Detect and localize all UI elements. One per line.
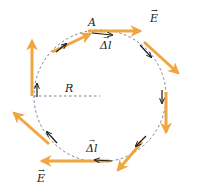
field-arrow-5 xyxy=(14,113,49,144)
dl-vector-bar-bottom: → xyxy=(89,137,95,145)
field-arrow-3 xyxy=(118,142,142,170)
radius-label: R xyxy=(64,82,73,95)
dl-arrow-top xyxy=(92,33,112,35)
diagram-canvas: A E → Δl → R Δl → E → xyxy=(0,0,198,193)
dl-vector-bar-top: → xyxy=(103,34,109,42)
point-a-label: A xyxy=(87,16,96,29)
field-vector-bar-bottom: → xyxy=(38,166,45,175)
field-arrow-1 xyxy=(144,42,178,73)
field-vector-bar-top: → xyxy=(151,6,158,15)
